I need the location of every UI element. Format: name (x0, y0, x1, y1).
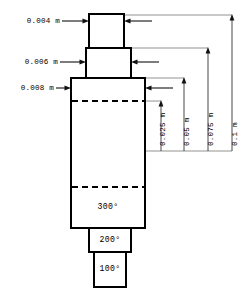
temperature-label-200: 200° (89, 235, 131, 244)
temperature-label-300: 300° (71, 202, 145, 211)
thickness-label-second-step: 0.006 m (0, 58, 58, 66)
section-top-0.004 (89, 14, 124, 48)
dimension-lines-group (161, 18, 232, 151)
thickness-label-main-body: 0.008 m (0, 84, 54, 92)
section-second-0.006 (86, 48, 131, 78)
temperature-label-100: 100° (94, 264, 126, 273)
drawing-canvas: 0.004 m 0.006 m 0.008 m 0.025 m 0.05 m 0… (0, 0, 245, 300)
stepped-body-outline-group (71, 14, 145, 287)
thickness-label-top-step: 0.004 m (0, 17, 60, 25)
height-label-0.05: 0.05 m (183, 117, 191, 146)
height-label-0.1: 0.1 m (231, 122, 239, 146)
height-label-0.025: 0.025 m (159, 113, 167, 146)
technical-drawing-svg (0, 0, 245, 300)
height-label-0.075: 0.075 m (207, 113, 215, 146)
dimension-arrowheads-group (159, 14, 235, 107)
